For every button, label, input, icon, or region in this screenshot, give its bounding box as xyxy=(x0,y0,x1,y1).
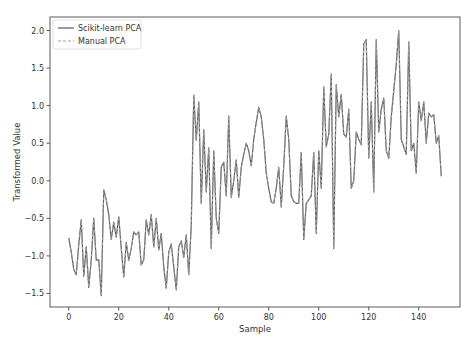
y-tick-label: −1.5 xyxy=(25,289,44,298)
y-tick-label: 0.5 xyxy=(31,139,44,148)
legend: Scikit-learn PCA Manual PCA xyxy=(53,20,142,49)
y-tick-label: 1.0 xyxy=(31,102,44,111)
x-axis-label: Sample xyxy=(239,324,271,334)
plot-lines xyxy=(69,31,442,296)
legend-label-manual: Manual PCA xyxy=(78,37,126,46)
x-tick-label: 60 xyxy=(214,313,224,322)
x-tick-label: 20 xyxy=(114,313,124,322)
y-tick-label: 2.0 xyxy=(31,27,44,36)
x-tick-label: 40 xyxy=(164,313,174,322)
y-tick-label: −0.5 xyxy=(25,214,44,223)
x-tick-label: 0 xyxy=(66,313,71,322)
x-tick-label: 140 xyxy=(411,313,426,322)
x-axis-ticks: 020406080100120140 xyxy=(66,307,426,322)
legend-label-sklearn: Scikit-learn PCA xyxy=(78,24,142,33)
y-tick-label: 0.0 xyxy=(31,177,44,186)
axes-frame xyxy=(50,17,460,307)
x-tick-label: 100 xyxy=(311,313,326,322)
line-chart: 020406080100120140 −1.5−1.0−0.50.00.51.0… xyxy=(0,0,476,345)
series-line-sklearn-pca xyxy=(69,31,442,296)
y-tick-label: −1.0 xyxy=(25,252,44,261)
x-tick-label: 80 xyxy=(264,313,274,322)
series-line-manual-pca xyxy=(69,31,442,296)
x-tick-label: 120 xyxy=(361,313,376,322)
y-tick-label: 1.5 xyxy=(31,64,44,73)
y-axis-label: Transformed Value xyxy=(12,123,22,203)
y-axis-ticks: −1.5−1.0−0.50.00.51.01.52.0 xyxy=(25,27,50,299)
